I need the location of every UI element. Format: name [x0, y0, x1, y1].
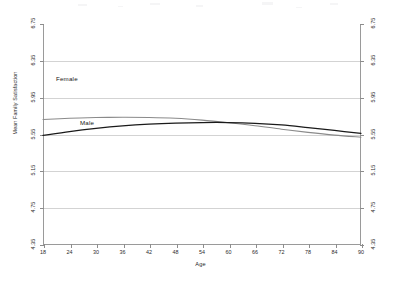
- y-axis-tick-label: 5.95: [370, 88, 376, 106]
- scan-artifact: [296, 7, 302, 8]
- y-axis-tick-label: 5.55: [370, 125, 376, 143]
- y-axis-tick-label: 6.35: [370, 51, 376, 69]
- series-annotation-male: Male: [80, 119, 94, 126]
- y-axis-tick-label: 5.95: [30, 88, 36, 106]
- series-annotation-female: Female: [56, 75, 78, 82]
- scan-artifact: [330, 3, 338, 5]
- x-axis-tick-label: 60: [219, 249, 239, 255]
- x-axis-tick-label: 30: [86, 249, 106, 255]
- data-curves: [43, 24, 361, 245]
- x-axis-tick-label: 18: [33, 249, 53, 255]
- y-axis-tick-label: 6.75: [30, 14, 36, 32]
- x-axis-tick-label: 90: [351, 249, 371, 255]
- x-axis-tick-label: 84: [325, 249, 345, 255]
- x-axis-tick-label: 66: [245, 249, 265, 255]
- x-axis-title: Age: [0, 261, 401, 267]
- y-axis-tick-label: 4.75: [370, 198, 376, 216]
- x-axis-tick-label: 48: [166, 249, 186, 255]
- scan-artifact: [118, 6, 123, 7]
- scan-artifact: [196, 5, 203, 7]
- chart-figure: Mean Family Satisfaction 4.354.755.155.5…: [0, 0, 401, 285]
- y-axis-tick-label: 6.75: [370, 14, 376, 32]
- y-axis-tick-label: 5.15: [30, 161, 36, 179]
- x-axis-tick-label: 54: [192, 249, 212, 255]
- x-axis-tick-label: 36: [113, 249, 133, 255]
- x-axis-tick-label: 24: [60, 249, 80, 255]
- axis-tick: [362, 244, 363, 248]
- y-axis-tick-label: 5.55: [30, 125, 36, 143]
- x-axis-tick-label: 78: [298, 249, 318, 255]
- y-axis-title: Mean Family Satisfaction: [12, 43, 18, 163]
- y-axis-tick-label: 4.75: [30, 198, 36, 216]
- x-axis-tick-label: 72: [272, 249, 292, 255]
- x-axis-tick-label: 42: [139, 249, 159, 255]
- scan-artifact: [78, 4, 87, 6]
- y-axis-tick-label: 5.15: [370, 161, 376, 179]
- scan-artifact: [262, 2, 273, 5]
- y-axis-tick-label: 6.35: [30, 51, 36, 69]
- scan-artifact: [150, 3, 160, 5]
